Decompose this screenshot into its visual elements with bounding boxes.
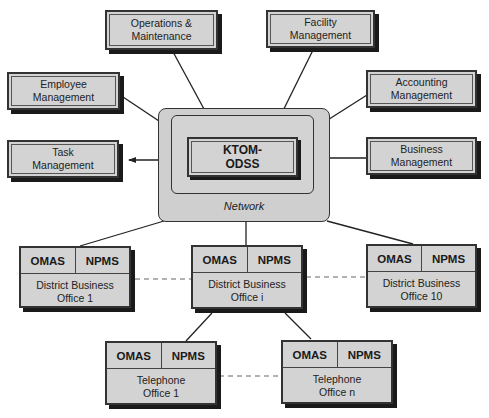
module-label: Business Management: [391, 143, 452, 169]
module-label: Operations & Maintenance: [131, 17, 192, 43]
office-name: District Business Office 1: [21, 274, 129, 305]
telephone-office-n: OMASNPMS Telephone Office n: [281, 340, 393, 404]
office-name: Telephone Office 1: [107, 369, 215, 400]
district-business-office-1: OMASNPMS District Business Office 1: [19, 246, 131, 308]
core-label: KTOM- ODSS: [223, 143, 262, 171]
omas-cell: OMAS: [368, 246, 421, 271]
employee-management-module: Employee Management: [7, 72, 120, 110]
npms-cell: NPMS: [75, 248, 130, 273]
npms-cell: NPMS: [421, 246, 475, 271]
module-label: Facility Management: [290, 16, 351, 42]
office-name: Telephone Office n: [283, 368, 391, 399]
omas-cell: OMAS: [21, 248, 75, 273]
telephone-office-1: OMASNPMS Telephone Office 1: [105, 341, 217, 405]
district-business-office-i: OMASNPMS District Business Office i: [191, 245, 303, 309]
npms-cell: NPMS: [247, 247, 302, 272]
module-label: Employee Management: [33, 78, 94, 104]
module-label: Accounting Management: [391, 76, 452, 102]
office-name: District Business Office i: [193, 273, 301, 304]
operations-maintenance-module: Operations & Maintenance: [105, 10, 218, 50]
module-label: Task Management: [32, 146, 93, 172]
omas-cell: OMAS: [283, 342, 337, 367]
ktom-odss-core: KTOM- ODSS: [187, 137, 298, 177]
district-business-office-10: OMASNPMS District Business Office 10: [366, 244, 477, 308]
omas-cell: OMAS: [193, 247, 247, 272]
facility-management-module: Facility Management: [266, 10, 375, 48]
business-management-module: Business Management: [366, 137, 477, 175]
npms-cell: NPMS: [161, 343, 216, 368]
task-management-module: Task Management: [7, 140, 119, 178]
office-name: District Business Office 10: [368, 272, 475, 303]
npms-cell: NPMS: [337, 342, 392, 367]
omas-cell: OMAS: [107, 343, 161, 368]
accounting-management-module: Accounting Management: [366, 70, 477, 108]
network-label: Network: [158, 200, 330, 212]
